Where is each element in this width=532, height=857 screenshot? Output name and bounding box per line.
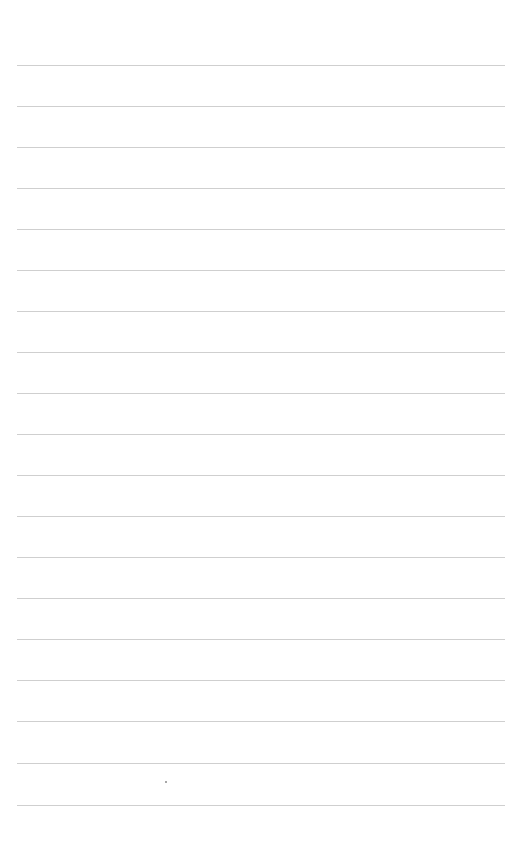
ruled-line (17, 270, 505, 271)
ink-speck (165, 781, 167, 783)
lined-paper-page (0, 0, 532, 857)
ruled-line (17, 475, 505, 476)
ruled-line (17, 229, 505, 230)
ruled-line (17, 434, 505, 435)
ruled-line (17, 721, 505, 722)
ruled-line (17, 639, 505, 640)
ruled-line (17, 680, 505, 681)
ruled-line (17, 393, 505, 394)
ruled-line (17, 516, 505, 517)
ruled-line (17, 557, 505, 558)
ruled-line (17, 188, 505, 189)
ruled-line (17, 311, 505, 312)
ruled-line (17, 352, 505, 353)
ruled-line (17, 805, 505, 806)
ruled-line (17, 763, 505, 764)
ruled-line (17, 598, 505, 599)
ruled-line (17, 147, 505, 148)
ruled-line (17, 65, 505, 66)
ruled-line (17, 106, 505, 107)
